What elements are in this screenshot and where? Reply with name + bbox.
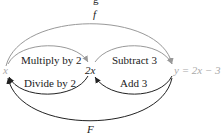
divide-label: Divide by 2 — [24, 77, 76, 89]
multiply-label: Multiply by 2 — [21, 54, 82, 66]
title-fragment: g — [93, 0, 99, 5]
node-2x: 2x — [85, 64, 96, 76]
function-inverse-diagram: g f Multiply by 2 Divide by 2 Subtract 3… — [0, 0, 222, 135]
node-y: y = 2x − 3 — [173, 64, 221, 76]
f-label: f — [93, 8, 98, 20]
node-x: x — [2, 64, 8, 76]
F-label: F — [86, 123, 94, 135]
subtract-label: Subtract 3 — [112, 54, 157, 66]
add-label: Add 3 — [120, 77, 148, 89]
